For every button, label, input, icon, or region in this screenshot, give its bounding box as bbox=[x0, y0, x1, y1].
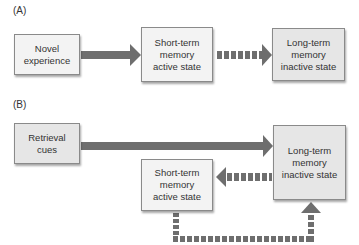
memory-diagram: (A) (B) bbox=[0, 0, 359, 245]
long-term-memory-text: Long-term memory inactive state bbox=[282, 145, 337, 181]
solid-arrow-icon bbox=[81, 135, 273, 157]
long-term-memory-box-a: Long-term memory inactive state bbox=[272, 28, 345, 81]
short-term-memory-text: Short-term memory active state bbox=[153, 37, 201, 73]
short-term-memory-text: Short-term memory active state bbox=[153, 167, 201, 203]
retrieval-cues-box: Retrieval cues bbox=[14, 123, 80, 164]
retrieval-cues-text: Retrieval cues bbox=[28, 132, 66, 156]
novel-experience-box: Novel experience bbox=[14, 34, 80, 75]
long-term-memory-text: Long-term memory inactive state bbox=[281, 37, 336, 73]
long-term-memory-box-b: Long-term memory inactive state bbox=[273, 125, 346, 200]
dashed-arrow-icon bbox=[217, 44, 272, 66]
solid-arrow-icon bbox=[81, 44, 141, 66]
novel-experience-text: Novel experience bbox=[24, 43, 70, 67]
dashed-arrow-icon bbox=[216, 167, 272, 187]
short-term-memory-box-a: Short-term memory active state bbox=[141, 27, 213, 82]
short-term-memory-box-b: Short-term memory active state bbox=[141, 159, 213, 211]
